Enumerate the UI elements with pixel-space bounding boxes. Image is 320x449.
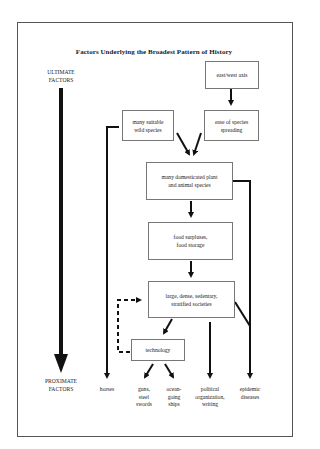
node-wild-species-line2: wild species — [132, 126, 163, 134]
node-societies-line1: large, dense, sedentary, — [166, 292, 218, 300]
node-ease-spreading-line1: ease of species — [215, 118, 248, 126]
edge-technology-to-guns — [145, 364, 153, 377]
node-domesticated-line1: many domesticated plant — [162, 173, 218, 181]
outcome-epidemic-line2: diseases — [228, 394, 272, 402]
outcome-political-line2: organization, — [188, 394, 232, 402]
edge-ease-to-domesticated — [194, 133, 201, 154]
node-food: food surpluses, food storage — [148, 222, 233, 260]
node-food-line1: food surpluses, — [174, 233, 208, 241]
edge-technology-to-ships — [165, 364, 173, 377]
edge-domesticated-to-epidemic — [233, 181, 250, 377]
edge-societies-to-technology — [164, 319, 172, 333]
node-societies: large, dense, sedentary, stratified soci… — [148, 281, 235, 318]
outcome-epidemic: epidemic diseases — [228, 386, 272, 401]
node-technology: technology — [131, 339, 185, 361]
edge-wild-to-domesticated — [177, 133, 189, 154]
edge-societies-to-epidemic — [235, 302, 250, 326]
node-technology-label: technology — [146, 346, 171, 354]
node-ease-spreading-line2: spreading — [215, 126, 248, 134]
node-wild-species: many suitable wild species — [122, 110, 174, 141]
outcome-epidemic-line1: epidemic — [228, 386, 272, 394]
node-ease-spreading: ease of species spreading — [204, 110, 259, 141]
node-east-west-axis: east/west axis — [205, 61, 259, 89]
node-domesticated: many domesticated plant and animal speci… — [146, 162, 233, 200]
outcome-political-line3: writing — [188, 401, 232, 409]
outcome-political: political organization, writing — [188, 386, 232, 409]
node-wild-species-line1: many suitable — [132, 118, 163, 126]
node-societies-line2: stratified societies — [166, 300, 218, 308]
node-domesticated-line2: and animal species — [162, 181, 218, 189]
outcome-political-line1: political — [188, 386, 232, 394]
node-east-west-axis-label: east/west axis — [217, 71, 248, 79]
ultimate-to-proximate-arrow — [54, 88, 68, 373]
node-food-line2: food storage — [174, 241, 208, 249]
